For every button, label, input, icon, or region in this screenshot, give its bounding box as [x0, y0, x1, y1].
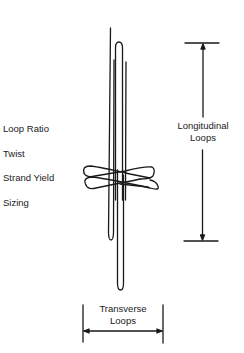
property-label-loop-ratio: Loop Ratio	[3, 123, 49, 134]
transverse-loops	[84, 166, 159, 189]
longitudinal-loops-label: Longitudinal Loops	[176, 120, 229, 144]
transverse-label-line1: Transverse	[99, 303, 146, 315]
longitudinal-filaments	[109, 28, 127, 290]
longitudinal-label-line1: Longitudinal	[177, 120, 228, 132]
property-label-twist: Twist	[3, 148, 25, 159]
transverse-loops-label: Transverse Loops	[98, 303, 147, 327]
transverse-label-line2: Loops	[99, 315, 146, 327]
property-label-strand-yield: Strand Yield	[3, 172, 54, 183]
longitudinal-label-line2: Loops	[177, 132, 228, 144]
property-label-sizing: Sizing	[3, 197, 29, 208]
